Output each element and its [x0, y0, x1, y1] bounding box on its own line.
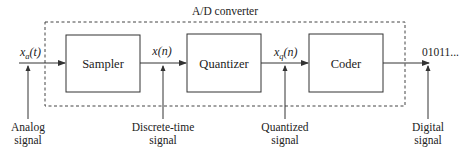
svg-text:Digital: Digital	[412, 121, 444, 134]
svg-text:signal: signal	[271, 134, 298, 147]
input-signal-label: xa(t)	[19, 45, 41, 61]
svg-text:Discrete-time: Discrete-time	[132, 121, 195, 133]
discrete-time-signal-annotation: Discrete-time signal	[132, 121, 195, 147]
ad-converter-title: A/D converter	[192, 5, 258, 17]
quantizer-label: Quantizer	[199, 57, 249, 71]
sampler-block: Sampler	[66, 35, 140, 92]
sampled-signal-label: x(n)	[151, 44, 171, 58]
analog-signal-annotation: Analog signal	[11, 121, 45, 147]
coder-block: Coder	[309, 34, 383, 92]
svg-text:signal: signal	[149, 134, 176, 147]
quantizer-block: Quantizer	[187, 34, 261, 92]
svg-text:Quantized: Quantized	[261, 121, 309, 133]
coder-label: Coder	[331, 57, 362, 71]
output-bits-label: 01011...	[422, 46, 459, 58]
svg-text:Analog: Analog	[11, 121, 45, 134]
digital-signal-annotation: Digital signal	[412, 121, 444, 147]
sampler-label: Sampler	[82, 57, 124, 71]
quantized-signal-label: xq(n)	[273, 45, 298, 61]
svg-text:signal: signal	[14, 134, 41, 147]
quantized-signal-annotation: Quantized signal	[261, 121, 309, 147]
svg-text:signal: signal	[414, 134, 441, 147]
ad-converter-diagram: A/D converter Sampler Quantizer Coder xa…	[0, 0, 470, 154]
